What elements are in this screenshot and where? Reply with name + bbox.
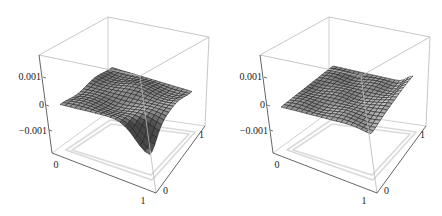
x-tick-label: 0: [54, 159, 59, 170]
plot-canvas-left: 0.001 0 −0.001 0 1 0 1: [0, 0, 221, 216]
y-tick-label: 1: [420, 129, 425, 140]
z-tick-label: −0.001: [240, 125, 268, 136]
surface-plot-right: 0.001 0 −0.001 0 1 0 1: [221, 0, 442, 216]
z-tick-label: 0: [39, 99, 44, 110]
tick-marks: [43, 77, 52, 131]
surface-plot-left: 0.001 0 −0.001 0 1 0 1: [0, 0, 221, 216]
y-tick-label: 0: [163, 185, 168, 196]
tick-marks: [264, 77, 273, 131]
z-tick-label: 0.001: [240, 71, 263, 82]
z-tick-label: 0: [260, 99, 265, 110]
z-tick-label: 0.001: [19, 71, 42, 82]
x-tick-label: 0: [275, 159, 280, 170]
z-tick-label: −0.001: [19, 125, 47, 136]
y-tick-label: 1: [199, 129, 204, 140]
x-tick-label: 1: [362, 195, 367, 206]
y-tick-label: 0: [384, 185, 389, 196]
plot-canvas-right: 0.001 0 −0.001 0 1 0 1: [221, 0, 442, 216]
surface-mesh-right: [281, 66, 413, 134]
x-tick-label: 1: [141, 195, 146, 206]
